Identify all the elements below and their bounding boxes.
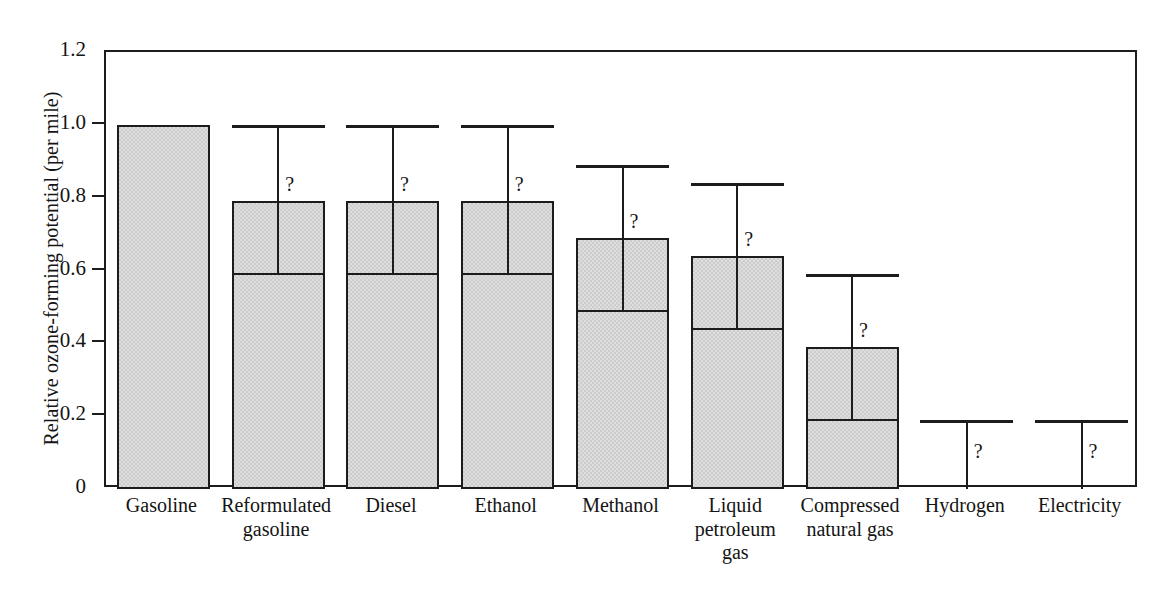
- y-axis-tick-label: 0.8: [26, 185, 86, 206]
- ozone-forming-potential-chart: Relative ozone-forming potential (per mi…: [0, 0, 1170, 600]
- bar-group[interactable]: ?: [576, 52, 669, 485]
- range-low-line: [346, 273, 439, 275]
- x-axis-label-line: Electricity: [1010, 494, 1149, 518]
- error-bar-stem-inner: [277, 201, 279, 274]
- error-bar-stem-inner: [736, 256, 738, 329]
- bar-group[interactable]: ?: [461, 52, 554, 485]
- bar-group[interactable]: ?: [691, 52, 784, 485]
- range-low-line: [806, 419, 899, 421]
- error-bar-stem-inner: [507, 201, 509, 274]
- bar[interactable]: [117, 125, 210, 489]
- x-axis-label: Electricity: [1010, 494, 1149, 518]
- error-bar-stem-inner: [622, 238, 624, 311]
- uncertainty-marker: ?: [744, 229, 753, 249]
- x-axis-label-line: gasoline: [207, 518, 346, 542]
- y-axis-tick-label: 1.2: [26, 39, 86, 60]
- y-axis-tick-label: 0.2: [26, 403, 86, 424]
- error-bar-stem-inner: [851, 347, 853, 420]
- uncertainty-marker: ?: [974, 441, 983, 461]
- y-axis-tick-label: 0.6: [26, 258, 86, 279]
- uncertainty-marker: ?: [859, 320, 868, 340]
- x-axis-label-line: natural gas: [781, 518, 920, 542]
- range-low-line: [232, 273, 325, 275]
- bar-group[interactable]: ?: [1035, 52, 1128, 485]
- y-axis-tick-label: 1.0: [26, 112, 86, 133]
- range-low-line: [691, 328, 784, 330]
- bar-group[interactable]: ?: [806, 52, 899, 485]
- bar-group[interactable]: ?: [920, 52, 1013, 485]
- y-axis-tick-label: 0.4: [26, 330, 86, 351]
- bar-group[interactable]: ?: [346, 52, 439, 485]
- y-axis-tick-label: 0: [26, 476, 86, 497]
- uncertainty-marker: ?: [285, 174, 294, 194]
- range-low-line: [461, 273, 554, 275]
- plot-area: ????????: [104, 50, 1137, 487]
- uncertainty-marker: ?: [515, 174, 524, 194]
- uncertainty-marker: ?: [630, 211, 639, 231]
- bar-group[interactable]: ?: [232, 52, 325, 485]
- bar-group[interactable]: [117, 52, 210, 485]
- uncertainty-marker: ?: [400, 174, 409, 194]
- error-bar-stem-inner: [392, 201, 394, 274]
- error-bar-stem: [966, 420, 968, 489]
- x-axis-label-line: gas: [666, 541, 805, 565]
- range-low-line: [576, 310, 669, 312]
- error-bar-stem: [1081, 420, 1083, 489]
- uncertainty-marker: ?: [1089, 441, 1098, 461]
